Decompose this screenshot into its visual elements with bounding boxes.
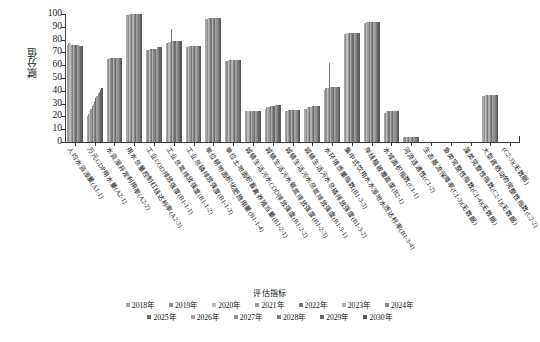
bar-group <box>443 14 459 142</box>
bar <box>319 106 320 142</box>
legend-swatch-icon <box>126 303 130 307</box>
legend-label: 2021年 <box>261 299 284 310</box>
bar-group <box>245 14 261 142</box>
legend-swatch-icon <box>363 315 367 319</box>
bar-group <box>126 14 142 142</box>
legend-item[interactable]: 2023年 <box>342 299 371 310</box>
bar <box>121 58 122 142</box>
legend-label: 2025年 <box>153 311 176 322</box>
legend-label: 2027年 <box>240 311 263 322</box>
bar <box>141 14 142 142</box>
legend-item[interactable]: 2028年 <box>277 311 306 322</box>
legend-item[interactable]: 2021年 <box>255 299 284 310</box>
legend-label: 2018年 <box>132 299 155 310</box>
legend-item[interactable]: 2024年 <box>385 299 414 310</box>
legend-label: 2019年 <box>175 299 198 310</box>
legend-item[interactable]: 2025年 <box>147 311 176 322</box>
bar <box>497 95 498 142</box>
legend-item[interactable]: 2022年 <box>299 299 328 310</box>
bar-group <box>285 14 301 142</box>
bar-group <box>166 14 182 142</box>
legend-swatch-icon <box>234 315 238 319</box>
bar <box>200 46 201 142</box>
legend-swatch-icon <box>385 303 389 307</box>
legend-swatch-icon <box>147 315 151 319</box>
legend-label: 2030年 <box>369 311 392 322</box>
bar-group <box>344 14 360 142</box>
y-tick-label: 100 <box>48 9 62 19</box>
bar-groups <box>65 14 520 142</box>
legend-label: 2024年 <box>391 299 414 310</box>
bar-group <box>384 14 400 142</box>
bar-group <box>205 14 221 142</box>
legend-label: 2023年 <box>348 299 371 310</box>
x-category-label: 水域面积指数(C1-1) <box>382 146 421 200</box>
legend-swatch-icon <box>212 303 216 307</box>
x-axis-category-labels: 人均水资源量(A1-1)万元GDP用水量(A2-1)水资源开发利用率(A2-2)… <box>0 146 540 286</box>
bar-group <box>364 14 380 142</box>
bar <box>180 41 181 142</box>
legend-label: 2026年 <box>197 311 220 322</box>
bar-group <box>502 14 518 142</box>
legend-swatch-icon <box>342 303 346 307</box>
bar <box>82 46 83 142</box>
bar <box>299 110 300 142</box>
bar-group <box>265 14 281 142</box>
bar-group <box>324 14 340 142</box>
legend-swatch-icon <box>169 303 173 307</box>
legend-item[interactable]: 2019年 <box>169 299 198 310</box>
legend-title: 评估指标 <box>0 287 540 298</box>
bar <box>378 22 379 142</box>
legend-item[interactable]: 2029年 <box>320 311 349 322</box>
bar-group <box>463 14 479 142</box>
bar-group <box>304 14 320 142</box>
bar-group <box>107 14 123 142</box>
legend-swatch-icon <box>277 315 281 319</box>
bar-group <box>482 14 498 142</box>
bar-group <box>146 14 162 142</box>
legend-item[interactable]: 2027年 <box>234 311 263 322</box>
legend-item[interactable]: 2030年 <box>363 311 392 322</box>
bar <box>398 111 399 142</box>
bar <box>101 88 102 142</box>
bar <box>260 111 261 142</box>
legend-label: 2022年 <box>305 299 328 310</box>
legend-swatch-icon <box>255 303 259 307</box>
legend-label: 2028年 <box>283 311 306 322</box>
bar <box>220 18 221 142</box>
y-axis-tick-labels: 0102030405060708090100 <box>38 10 62 143</box>
plot-area: 赋分值 0102030405060708090100 <box>0 0 540 160</box>
chart-figure: 赋分值 0102030405060708090100 人均水资源量(A1-1)万… <box>0 0 540 342</box>
bar-group <box>225 14 241 142</box>
legend-label: 2029年 <box>326 311 349 322</box>
bar-group <box>67 14 83 142</box>
bar-group <box>403 14 419 142</box>
bar-group <box>423 14 439 142</box>
legend-row: 2018年2019年2020年2021年2022年2023年2024年 <box>0 299 540 310</box>
bar <box>418 137 419 142</box>
legend-label: 2020年 <box>218 299 241 310</box>
legend-item[interactable]: 2020年 <box>212 299 241 310</box>
legend-row: 2025年2026年2027年2028年2029年2030年 <box>0 311 540 322</box>
legend-item[interactable]: 2018年 <box>126 299 155 310</box>
bar <box>240 60 241 142</box>
bar <box>161 47 162 142</box>
bar-group <box>87 14 103 142</box>
bar <box>359 33 360 142</box>
bar <box>339 87 340 142</box>
legend-swatch-icon <box>299 303 303 307</box>
legend-swatch-icon <box>191 315 195 319</box>
legend-item[interactable]: 2026年 <box>191 311 220 322</box>
legend-swatch-icon <box>320 315 324 319</box>
legend: 2018年2019年2020年2021年2022年2023年2024年2025年… <box>0 299 540 322</box>
bar-group <box>186 14 202 142</box>
bar <box>279 105 280 142</box>
x-category-label: 人均水资源量(A1-1) <box>66 146 106 200</box>
